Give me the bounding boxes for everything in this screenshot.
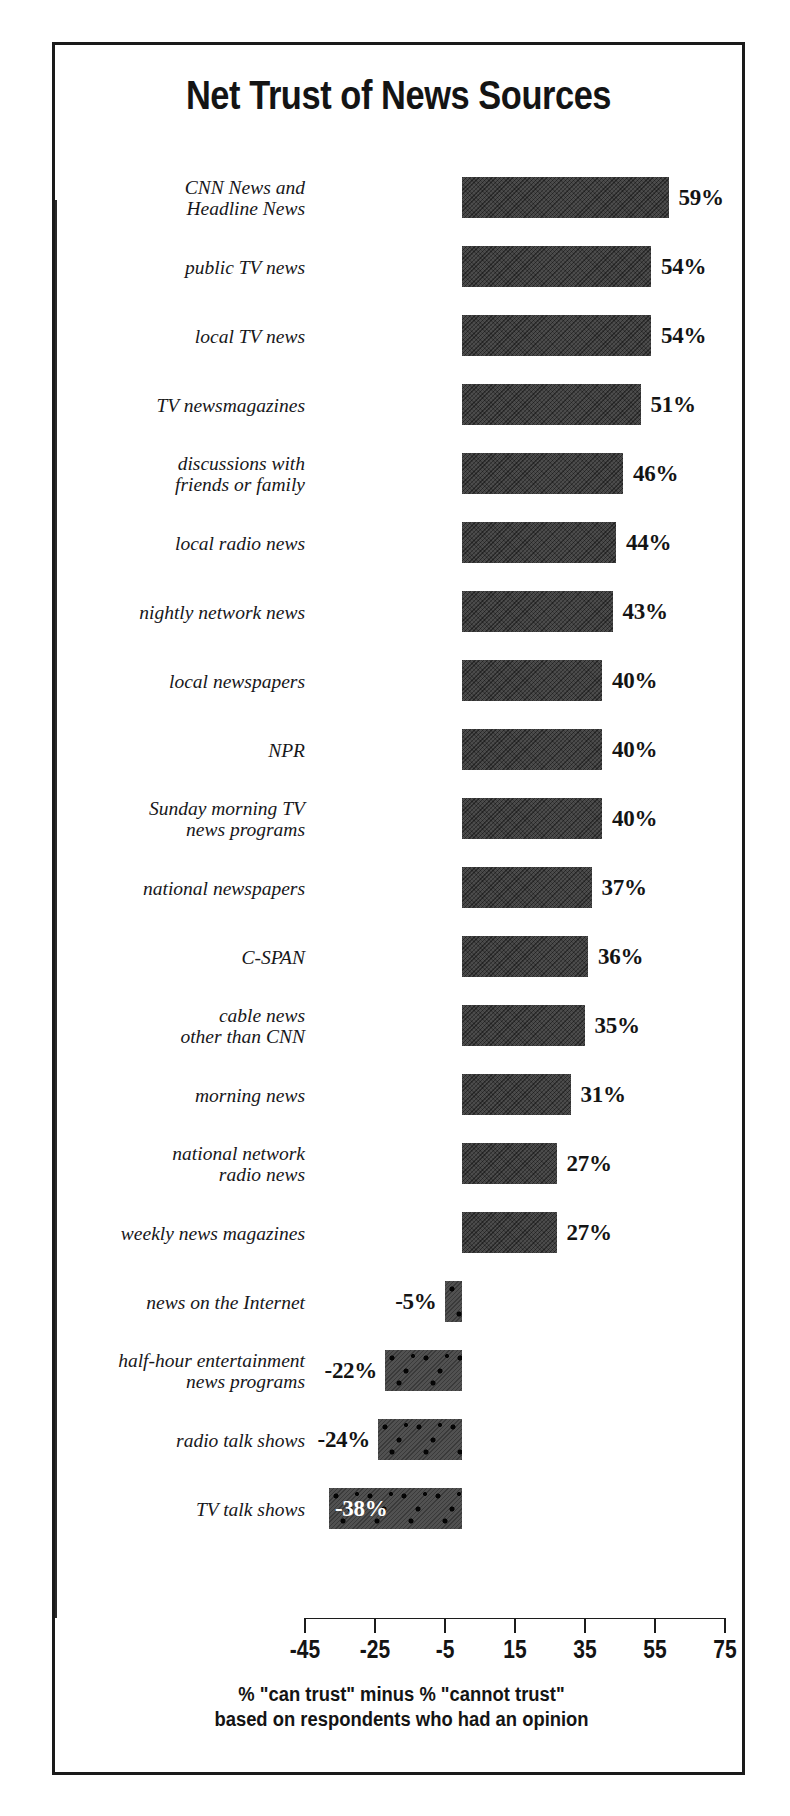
x-tick [724, 1618, 726, 1633]
x-tick-label: -5 [435, 1635, 454, 1664]
bar [462, 1212, 557, 1253]
bar-row: C-SPAN36% [55, 922, 748, 991]
bar [462, 453, 623, 494]
bar-wrapper: 27% [55, 1212, 748, 1253]
bar-wrapper: 31% [55, 1074, 748, 1115]
value-label: -5% [395, 1289, 436, 1315]
bar-row: weekly news magazines27% [55, 1198, 748, 1267]
x-tick-label: -25 [359, 1635, 389, 1664]
value-label: 31% [581, 1082, 626, 1108]
value-label: 37% [602, 875, 647, 901]
value-label: 40% [612, 806, 657, 832]
bar-row: morning news31% [55, 1060, 748, 1129]
bar [385, 1350, 462, 1391]
bar-row: news on the Internet-5% [55, 1267, 748, 1336]
bar [462, 1074, 571, 1115]
bar-wrapper: 54% [55, 315, 748, 356]
x-tick [374, 1618, 376, 1633]
bar [462, 936, 588, 977]
value-label: 43% [623, 599, 668, 625]
bar-row: local radio news44% [55, 508, 748, 577]
bar [378, 1419, 462, 1460]
value-label: 27% [567, 1151, 612, 1177]
bar [462, 315, 651, 356]
value-label: 54% [661, 254, 706, 280]
bar-wrapper: -24% [55, 1419, 748, 1460]
value-label: 44% [626, 530, 671, 556]
bar-row: nightly network news43% [55, 577, 748, 646]
value-label: 27% [567, 1220, 612, 1246]
bar-wrapper: -38% [55, 1488, 748, 1529]
value-label: 51% [651, 392, 696, 418]
bar-row: TV newsmagazines51% [55, 370, 748, 439]
chart-footnote: % "can trust" minus % "cannot trust" bas… [83, 1682, 721, 1732]
bar [462, 384, 641, 425]
bar [462, 798, 602, 839]
value-label: -24% [318, 1427, 370, 1453]
chart-frame: Net Trust of News Sources CNN News and H… [52, 42, 745, 1775]
bar-wrapper: 51% [55, 384, 748, 425]
bar-wrapper: 37% [55, 867, 748, 908]
value-label: 40% [612, 668, 657, 694]
value-label: 54% [661, 323, 706, 349]
bar-row: TV talk shows-38% [55, 1474, 748, 1543]
bar-wrapper: 36% [55, 936, 748, 977]
x-tick-label: 15 [503, 1635, 526, 1664]
bar-wrapper: 40% [55, 798, 748, 839]
x-tick [514, 1618, 516, 1633]
bar [462, 522, 616, 563]
value-label: 46% [633, 461, 678, 487]
bar [462, 177, 669, 218]
x-tick-label: 35 [573, 1635, 596, 1664]
value-label: 36% [598, 944, 643, 970]
bar-row: local newspapers40% [55, 646, 748, 715]
bar-wrapper: 40% [55, 660, 748, 701]
value-label: 35% [595, 1013, 640, 1039]
bar-wrapper: 35% [55, 1005, 748, 1046]
value-label: 40% [612, 737, 657, 763]
bar-row: radio talk shows-24% [55, 1405, 748, 1474]
bar-row: national newspapers37% [55, 853, 748, 922]
bar [462, 729, 602, 770]
bar-row: national network radio news27% [55, 1129, 748, 1198]
x-tick [444, 1618, 446, 1633]
plot-area: CNN News and Headline News59%public TV n… [55, 45, 748, 1778]
footnote-line-2: based on respondents who had an opinion [83, 1707, 721, 1732]
bar [462, 1005, 585, 1046]
x-tick-label: 55 [643, 1635, 666, 1664]
bar-row: public TV news54% [55, 232, 748, 301]
bar [462, 591, 613, 632]
value-label: 59% [679, 185, 724, 211]
bar-wrapper: 59% [55, 177, 748, 218]
bar-row: cable news other than CNN35% [55, 991, 748, 1060]
value-label: -38% [335, 1496, 387, 1522]
bar [462, 660, 602, 701]
bar-wrapper: -22% [55, 1350, 748, 1391]
bar-wrapper: 46% [55, 453, 748, 494]
bar-row: NPR40% [55, 715, 748, 784]
bar-wrapper: 40% [55, 729, 748, 770]
footnote-line-1: % "can trust" minus % "cannot trust" [83, 1682, 721, 1707]
bar-row: half-hour entertainment news programs-22… [55, 1336, 748, 1405]
x-tick [654, 1618, 656, 1633]
bar-wrapper: 43% [55, 591, 748, 632]
x-tick [304, 1618, 306, 1633]
bar-wrapper: 44% [55, 522, 748, 563]
x-tick [584, 1618, 586, 1633]
bar-row: discussions with friends or family46% [55, 439, 748, 508]
bar [462, 246, 651, 287]
bar-row: CNN News and Headline News59% [55, 163, 748, 232]
bar-row: local TV news54% [55, 301, 748, 370]
bar-wrapper: 27% [55, 1143, 748, 1184]
bar [462, 867, 592, 908]
x-tick-label: -45 [289, 1635, 319, 1664]
bar-row: Sunday morning TV news programs40% [55, 784, 748, 853]
bar-wrapper: 54% [55, 246, 748, 287]
bar-wrapper: -5% [55, 1281, 748, 1322]
bar [462, 1143, 557, 1184]
bar [445, 1281, 463, 1322]
x-tick-label: 75 [713, 1635, 736, 1664]
value-label: -22% [325, 1358, 377, 1384]
